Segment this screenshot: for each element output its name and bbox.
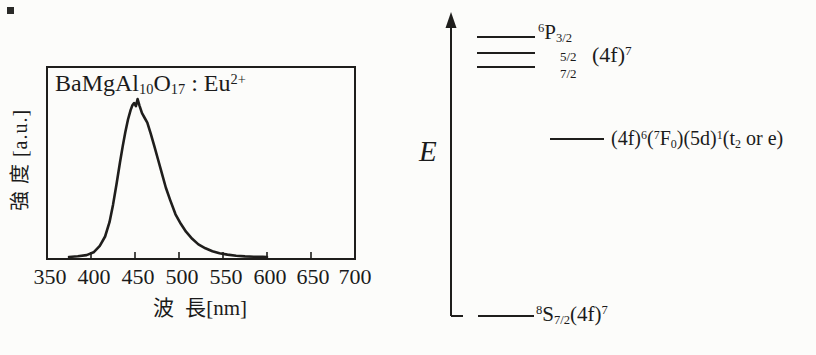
x-tick-400: 400 xyxy=(78,264,111,289)
x-tick-700: 700 xyxy=(339,264,372,289)
level-label-6p72: 7/2 xyxy=(560,67,577,80)
x-tick-650: 650 xyxy=(297,264,330,289)
level-label-6p32: 6P3/2 xyxy=(538,22,572,43)
level-label-6p52: 5/2 xyxy=(560,50,577,63)
x-tick-600: 600 xyxy=(254,264,287,289)
energy-axis-label: E xyxy=(419,137,437,166)
emission-curve xyxy=(69,99,267,257)
x-tick-500: 500 xyxy=(166,264,199,289)
x-axis-label: 波 長[nm] xyxy=(0,298,400,319)
level-label-5d-excited: (4f)6(7F0)(5d)1(t2 or e) xyxy=(611,128,783,148)
x-tick-550: 550 xyxy=(210,264,243,289)
energy-axis-arrowhead-icon xyxy=(446,12,457,28)
scan-artifact xyxy=(7,7,14,14)
level-label-ground-8s72: 8S7/2(4f)7 xyxy=(536,304,608,325)
y-axis-label: 強 度 [a.u.] xyxy=(10,76,30,244)
figure-scan: 350 400 450 500 550 600 650 700 BaMgAl10… xyxy=(0,0,816,355)
plot-sample-title: BaMgAl10O17 : Eu2+ xyxy=(55,71,246,95)
x-tick-450: 450 xyxy=(122,264,155,289)
x-axis-ticks xyxy=(91,252,311,259)
level-lines-6p xyxy=(477,37,535,67)
x-tick-350: 350 xyxy=(34,264,67,289)
configuration-label-4f7: (4f)7 xyxy=(592,44,632,66)
